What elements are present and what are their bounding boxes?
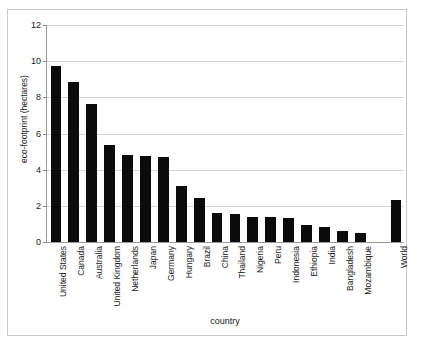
y-tick-label: 12: [31, 20, 41, 30]
x-tick-label: Indonesia: [291, 246, 301, 283]
plot-axes: 024681012: [46, 25, 404, 243]
bar: [51, 66, 62, 242]
x-tick-label: Bangladesh: [345, 246, 355, 291]
bar: [176, 186, 187, 242]
x-tick-label: Germany: [166, 246, 176, 281]
x-tick-label: United States: [58, 246, 68, 297]
x-tick-label: China: [220, 246, 230, 268]
x-tick-label: Nigeria: [255, 246, 265, 273]
x-tick-label: Canada: [76, 246, 86, 276]
bar: [230, 214, 241, 242]
bar-series: [47, 25, 404, 242]
bar: [104, 145, 115, 242]
y-tick-label: 2: [36, 201, 41, 211]
chart-frame: eco-footprint (hectares) 024681012 Unite…: [7, 9, 407, 336]
x-tick-label: World: [399, 246, 409, 268]
x-tick-label: Hungary: [184, 246, 194, 278]
y-tick-label: 4: [36, 165, 41, 175]
x-tick-label: Netherlands: [130, 246, 140, 292]
x-tick-label: Ethiopia: [309, 246, 319, 277]
bar: [283, 218, 294, 242]
bar: [265, 217, 276, 242]
bar: [140, 156, 151, 242]
x-tick-label: Brazil: [202, 246, 212, 267]
bar: [337, 231, 348, 242]
bar: [212, 213, 223, 242]
y-tick-label: 0: [36, 237, 41, 247]
x-tick-label: Thailand: [237, 246, 247, 279]
bar: [319, 227, 330, 242]
plot-area: 024681012: [46, 25, 404, 243]
y-tick-label: 8: [36, 92, 41, 102]
bar: [355, 233, 366, 242]
bar: [122, 155, 133, 242]
x-tick-label: United Kingdom: [112, 246, 122, 306]
bar: [158, 157, 169, 242]
x-tick-label: Japan: [148, 246, 158, 269]
x-tick-labels: United StatesCanadaAustraliaUnited Kingd…: [46, 246, 404, 316]
x-tick-label: Mozambique: [363, 246, 373, 295]
y-tick-label: 6: [36, 129, 41, 139]
bar: [86, 104, 97, 242]
bar: [391, 200, 402, 242]
bar: [194, 198, 205, 242]
x-axis-title: country: [46, 316, 404, 326]
y-axis-title: eco-footprint (hectares): [19, 59, 29, 179]
y-tick-label: 10: [31, 56, 41, 66]
bar: [247, 217, 258, 242]
x-tick-label: Peru: [273, 246, 283, 264]
bar: [301, 225, 312, 242]
x-tick-label: Australia: [94, 246, 104, 279]
y-tick-mark: [43, 242, 47, 243]
x-tick-label: India: [327, 246, 337, 264]
bar: [68, 82, 79, 242]
